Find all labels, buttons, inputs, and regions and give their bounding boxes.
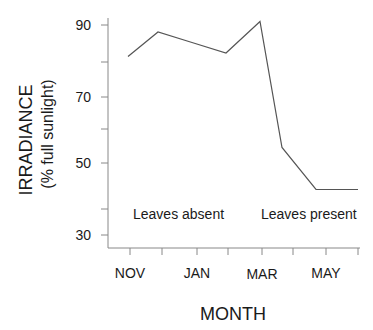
y-tick-90: 90	[75, 17, 91, 33]
x-ticks	[130, 248, 358, 255]
annotation-leaves-present: Leaves present	[261, 206, 357, 222]
x-tick-jan: JAN	[184, 265, 210, 281]
annotation-leaves-absent: Leaves absent	[133, 206, 224, 222]
y-tick-50: 50	[75, 155, 91, 171]
y-tick-70: 70	[75, 89, 91, 105]
y-ticks	[101, 25, 108, 235]
x-axis-title: MONTH	[200, 304, 266, 324]
x-tick-nov: NOV	[115, 265, 146, 281]
x-tick-mar: MAR	[246, 266, 277, 282]
irradiance-chart: 90 70 50 30 NOV JAN MAR MAY IRRADIANCE (…	[0, 0, 373, 330]
y-axis-title: IRRADIANCE	[16, 84, 36, 195]
y-tick-30: 30	[75, 227, 91, 243]
irradiance-line	[128, 22, 358, 190]
x-tick-may: MAY	[311, 265, 341, 281]
y-axis-subtitle: (% full sunlight)	[39, 79, 56, 188]
